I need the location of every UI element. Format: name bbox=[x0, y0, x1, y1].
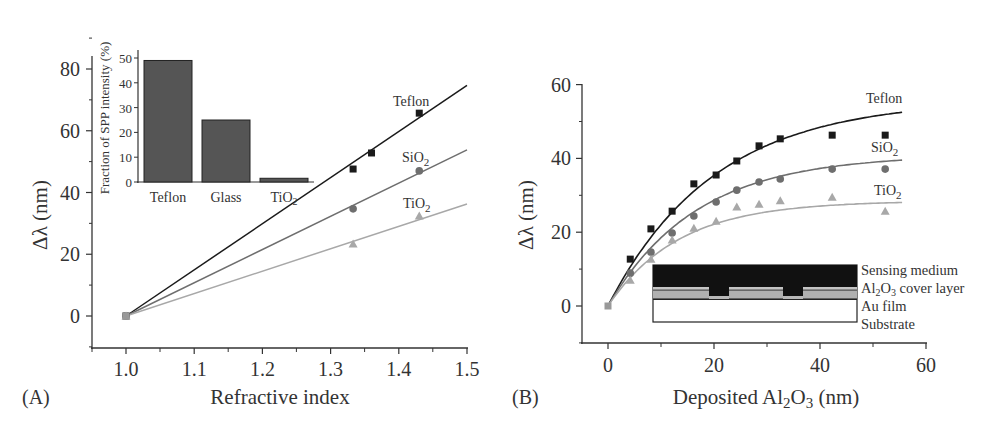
al2o3-cover-strip bbox=[729, 287, 783, 290]
b-label-tio2: TiO2 bbox=[874, 183, 902, 201]
circle-marker bbox=[828, 165, 836, 173]
triangle-marker bbox=[755, 200, 764, 208]
a-label-sio2: SiO2 bbox=[402, 150, 429, 168]
square-marker bbox=[829, 132, 836, 139]
inset-bar-teflon bbox=[144, 60, 192, 182]
square-marker bbox=[647, 225, 654, 232]
au-film-gap-strip bbox=[783, 296, 803, 299]
figure: 1.01.11.21.31.41.5020406080 01020304050T… bbox=[0, 0, 1004, 430]
au-film-gap-strip bbox=[709, 296, 729, 299]
circle-marker bbox=[755, 178, 763, 186]
inset-category-label: Teflon bbox=[150, 190, 186, 205]
au-film-segment bbox=[653, 291, 709, 299]
x-tick-label: 60 bbox=[916, 354, 936, 376]
inset-bar-tio2 bbox=[260, 178, 308, 182]
a-x-axis-title: Refractive index bbox=[210, 385, 350, 409]
inset-y-tick-label: 40 bbox=[119, 76, 132, 91]
au-film-segment bbox=[729, 291, 783, 299]
layer-label-au-film: Au film bbox=[861, 298, 907, 314]
triangle-marker bbox=[689, 224, 698, 232]
square-marker bbox=[756, 142, 763, 149]
circle-marker bbox=[690, 212, 698, 220]
y-tick-label: 80 bbox=[60, 58, 80, 80]
layer-label-sensing-medium: Sensing medium bbox=[861, 262, 959, 278]
y-tick-label: 20 bbox=[60, 243, 80, 265]
inset-category-label: TiO2 bbox=[270, 190, 297, 207]
y-tick-label: 20 bbox=[551, 221, 571, 243]
x-tick-label: 40 bbox=[810, 354, 830, 376]
inset-y-tick-label: 20 bbox=[119, 125, 132, 140]
au-film-segment bbox=[803, 291, 857, 299]
x-tick-label: 1.2 bbox=[250, 358, 275, 380]
panel-a-chart: 1.01.11.21.31.41.5020406080 01020304050T… bbox=[22, 38, 480, 409]
layer-label-substrate: Substrate bbox=[861, 316, 915, 332]
y-tick-label: 60 bbox=[551, 74, 571, 96]
layer-label-al2o3-cover: Al2O3 cover layer bbox=[861, 280, 965, 298]
inset-y-tick-label: 0 bbox=[126, 175, 133, 190]
inset-y-axis-title: Fraction of SPP intensity (%) bbox=[97, 42, 112, 195]
square-marker bbox=[882, 132, 889, 139]
square-marker bbox=[777, 135, 784, 142]
fit-line-tio2 bbox=[126, 204, 467, 316]
x-tick-label: 1.4 bbox=[386, 358, 411, 380]
x-tick-label: 1.3 bbox=[318, 358, 343, 380]
circle-marker bbox=[712, 198, 720, 206]
a-label-teflon: Teflon bbox=[393, 94, 429, 109]
square-marker bbox=[123, 313, 130, 320]
b-label-sio2: SiO2 bbox=[871, 140, 898, 158]
triangle-marker bbox=[732, 203, 741, 211]
square-marker bbox=[605, 303, 612, 310]
y-tick-label: 60 bbox=[60, 120, 80, 142]
y-tick-label: 40 bbox=[551, 147, 571, 169]
circle-marker bbox=[349, 205, 357, 213]
b-x-axis-title: Deposited Al2O3 (nm) bbox=[673, 385, 860, 411]
triangle-marker bbox=[668, 235, 677, 243]
b-label-teflon: Teflon bbox=[866, 91, 902, 106]
x-tick-label: 1.5 bbox=[455, 358, 480, 380]
circle-marker bbox=[881, 165, 889, 173]
panel-a-label: (A) bbox=[22, 386, 50, 409]
triangle-marker bbox=[415, 211, 424, 219]
inset-y-tick-label: 50 bbox=[119, 51, 132, 66]
triangle-marker bbox=[828, 193, 837, 201]
inset-category-label: Glass bbox=[210, 190, 241, 205]
square-marker bbox=[416, 110, 423, 117]
panel-b-label: (B) bbox=[512, 386, 539, 409]
square-marker bbox=[690, 180, 697, 187]
inset-y-tick-label: 10 bbox=[119, 150, 132, 165]
square-marker bbox=[368, 149, 375, 156]
y-tick-label: 0 bbox=[561, 295, 571, 317]
circle-marker bbox=[415, 167, 423, 175]
x-tick-label: 1.1 bbox=[182, 358, 207, 380]
panel-b-chart: 02040600204060 Teflon SiO2 TiO2 Sensing … bbox=[512, 74, 965, 411]
a-label-tio2: TiO2 bbox=[403, 196, 431, 214]
triangle-marker bbox=[881, 207, 890, 215]
triangle-marker bbox=[776, 196, 785, 204]
square-marker bbox=[669, 208, 676, 215]
square-marker bbox=[350, 166, 357, 173]
a-y-axis-title: Δλ (nm) bbox=[28, 180, 52, 250]
x-tick-label: 20 bbox=[704, 354, 724, 376]
inset-y-tick-label: 30 bbox=[119, 101, 132, 116]
panel-a-inset-bar-chart: 01020304050TeflonGlassTiO2Fraction of SP… bbox=[97, 42, 314, 207]
x-tick-label: 1.0 bbox=[114, 358, 139, 380]
y-tick-label: 40 bbox=[60, 182, 80, 204]
triangle-marker bbox=[712, 217, 721, 225]
layer-structure-diagram bbox=[653, 265, 857, 322]
al2o3-cover-strip bbox=[653, 287, 709, 290]
y-tick-label: 0 bbox=[70, 305, 80, 327]
al2o3-cover-strip bbox=[803, 287, 857, 290]
circle-marker bbox=[776, 175, 784, 183]
b-y-axis-title: Δλ (nm) bbox=[514, 180, 538, 250]
square-marker bbox=[627, 256, 634, 263]
inset-bar-glass bbox=[202, 120, 250, 182]
square-marker bbox=[713, 172, 720, 179]
square-marker bbox=[733, 157, 740, 164]
circle-marker bbox=[733, 186, 741, 194]
x-tick-label: 0 bbox=[603, 354, 613, 376]
